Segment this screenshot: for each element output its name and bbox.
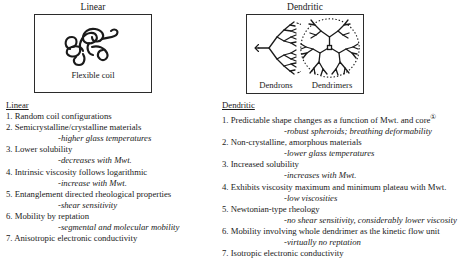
point-main-text: 1. Random coil configurations — [6, 111, 221, 122]
list-item: 6. Mobility involving whole dendrimer as… — [222, 226, 462, 248]
figure-box-dendritic: Dendrons Dendrimers — [246, 14, 364, 94]
column-heading-linear: Linear — [6, 100, 221, 111]
point-main-text: 3. Lower solubility — [6, 144, 221, 155]
point-sub-text: -low viscosities — [222, 193, 462, 204]
list-item: 3. Lower solubility-decreases with Mwt. — [6, 144, 221, 166]
list-item: 7. Anisotropic electronic conductivity — [6, 233, 221, 244]
figure-caption-flexible-coil: Flexible coil — [35, 70, 151, 80]
points-list-linear: 1. Random coil configurations2. Semicrys… — [6, 111, 221, 244]
list-item: 5. Entanglement directed rheological pro… — [6, 189, 221, 211]
point-main-text: 5. Entanglement directed rheological pro… — [6, 189, 221, 200]
list-item: 6. Mobility by reptation-segmental and m… — [6, 211, 221, 233]
dendrimer-sphere-sketch-icon — [299, 17, 361, 79]
point-sub-text: -lower glass temperatures — [222, 148, 462, 159]
point-main-text: 5. Newtonian-type rheology — [222, 204, 462, 215]
point-sub-text: -increase with Mwt. — [6, 178, 221, 189]
point-main-text: 1. Predictable shape changes as a functi… — [222, 111, 462, 126]
list-item: 4. Exhibits viscosity maximum and minimu… — [222, 182, 462, 204]
point-main-text: 6. Mobility involving whole dendrimer as… — [222, 226, 462, 237]
list-item: 4. Intrinsic viscosity follows logarithm… — [6, 167, 221, 189]
text-column-linear: Linear 1. Random coil configurations2. S… — [6, 100, 221, 244]
figure-page: Linear Flexible coil Dendritic — [0, 0, 464, 267]
point-main-text: 7. Anisotropic electronic conductivity — [6, 233, 221, 244]
point-main-text: 4. Intrinsic viscosity follows logarithm… — [6, 167, 221, 178]
point-main-text: 2. Non-crystalline, amorphous materials — [222, 137, 462, 148]
panel-title-linear: Linear — [34, 2, 152, 13]
point-sub-text: -robust spheroids; breathing deformabili… — [222, 126, 462, 137]
point-sub-text: -shear sensitivity — [6, 200, 221, 211]
text-column-dendritic: Dendritic 1. Predictable shape changes a… — [222, 100, 462, 259]
list-item: 7. Isotropic electronic conductivity — [222, 248, 462, 259]
panel-title-dendritic: Dendritic — [246, 2, 364, 13]
point-main-text: 2. Semicrystalline/crystalline materials — [6, 122, 221, 133]
core-reference-mark: ① — [430, 113, 436, 120]
dendron-wedge-sketch-icon — [253, 20, 301, 76]
figure-caption-dendrons: Dendrons — [250, 80, 302, 90]
point-main-text: 4. Exhibits viscosity maximum and minimu… — [222, 182, 462, 193]
list-item: 1. Random coil configurations — [6, 111, 221, 122]
point-sub-text: -decreases with Mwt. — [6, 155, 221, 166]
list-item: 5. Newtonian-type rheology-no shear sens… — [222, 204, 462, 226]
point-sub-text: -increases with Mwt. — [222, 170, 462, 181]
column-heading-dendritic: Dendritic — [222, 100, 462, 111]
list-item: 3. Increased solubility-increases with M… — [222, 159, 462, 181]
point-sub-text: -no shear sensitivity, considerably lowe… — [222, 215, 462, 226]
figure-caption-dendrimers: Dendrimers — [301, 80, 363, 90]
random-coil-sketch-icon — [59, 21, 129, 69]
point-main-text: 7. Isotropic electronic conductivity — [222, 248, 462, 259]
point-sub-text: -segmental and molecular mobility — [6, 222, 221, 233]
point-main-text: 3. Increased solubility — [222, 159, 462, 170]
point-main-text: 6. Mobility by reptation — [6, 211, 221, 222]
list-item: 1. Predictable shape changes as a functi… — [222, 111, 462, 137]
point-sub-text: -higher glass temperatures — [6, 133, 221, 144]
list-item: 2. Non-crystalline, amorphous materials-… — [222, 137, 462, 159]
figure-box-linear: Flexible coil — [34, 14, 152, 93]
list-item: 2. Semicrystalline/crystalline materials… — [6, 122, 221, 144]
point-sub-text: -virtually no reptation — [222, 237, 462, 248]
points-list-dendritic: 1. Predictable shape changes as a functi… — [222, 111, 462, 259]
